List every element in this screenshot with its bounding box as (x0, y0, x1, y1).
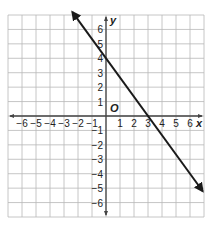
y-tick-label: −2 (92, 140, 104, 151)
y-tick-label: −3 (92, 154, 104, 165)
y-tick-label: 1 (97, 97, 103, 108)
x-tick-label: 1 (117, 118, 123, 129)
x-tick-label: −5 (30, 118, 42, 129)
x-tick-label: −6 (16, 118, 28, 129)
y-tick-label: 6 (97, 24, 103, 35)
x-tick-label: −4 (44, 118, 56, 129)
tick-labels: −6−5−4−3−2−1123456654321−1−2−3−4−5−6xyO (16, 14, 203, 209)
y-tick-label: 2 (97, 82, 103, 93)
x-axis-label: x (195, 117, 203, 129)
origin-label: O (110, 102, 119, 114)
y-axis-label: y (109, 14, 117, 26)
x-tick-label: 6 (187, 118, 193, 129)
y-tick-label: −4 (92, 169, 104, 180)
coordinate-plane: −6−5−4−3−2−1123456654321−1−2−3−4−5−6xyO (0, 0, 209, 226)
x-tick-label: −2 (72, 118, 84, 129)
x-tick-label: 2 (131, 118, 137, 129)
x-tick-label: 5 (173, 118, 179, 129)
x-tick-label: −3 (58, 118, 70, 129)
axes (10, 17, 202, 215)
y-tick-label: −5 (92, 183, 104, 194)
y-tick-label: 3 (97, 68, 103, 79)
x-tick-label: 4 (159, 118, 165, 129)
y-tick-label: −6 (92, 198, 104, 209)
y-tick-label: −1 (92, 125, 104, 136)
